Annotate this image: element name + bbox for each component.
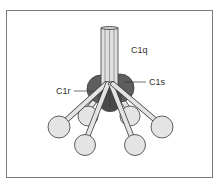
c1q-head-far-right — [151, 116, 173, 138]
label-c1r: C1r — [56, 86, 71, 96]
label-c1q: C1q — [131, 45, 148, 55]
c1q-head-bottom-right — [125, 135, 146, 156]
label-c1s: C1s — [149, 77, 165, 87]
c1q-head-far-left — [48, 116, 70, 138]
c1-complex-diagram — [0, 0, 220, 186]
c1q-head-bottom-left — [75, 135, 96, 156]
